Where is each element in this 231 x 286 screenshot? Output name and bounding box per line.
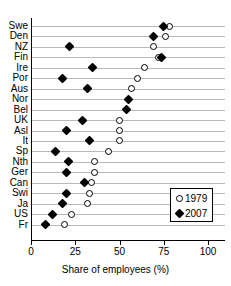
gridline [31,26,225,27]
x-tick-label-75: 75 [149,246,179,257]
gridline [31,57,225,58]
x-tick [31,241,32,245]
gridline [31,141,225,142]
data-point-den-2007 [148,31,158,41]
gridline [31,183,225,184]
data-point-ire-2007 [88,63,98,73]
y-axis-label-nor: Nor [0,94,28,104]
filled-diamond-icon [171,207,185,221]
gridline [31,162,225,163]
y-axis-label-uk: UK [0,115,28,125]
y-axis-label-swi: Swi [0,188,28,198]
x-tick [208,241,209,245]
y-axis-label-por: Por [0,73,28,83]
y-axis-label-den: Den [0,31,28,41]
gridline [31,36,225,37]
data-point-aus-2007 [83,84,93,94]
legend-label-1979: 1979 [185,194,207,204]
data-point-sp-2007 [51,146,61,156]
data-point-asl-1979 [116,127,123,134]
data-point-nth-2007 [63,157,73,167]
data-point-us-1979 [68,211,75,218]
data-point-por-1979 [134,75,141,82]
data-point-swi-2007 [61,188,71,198]
data-point-bel-2007 [122,105,132,115]
legend-entry-1979: 1979 [171,191,214,206]
legend-label-2007: 2007 [185,209,207,219]
data-point-swi-1979 [86,190,93,197]
data-point-ja-2007 [58,199,68,209]
data-point-den-1979 [162,33,169,40]
data-point-fr-1979 [61,221,68,228]
x-tick [120,241,121,245]
y-axis-label-asl: Asl [0,126,28,136]
y-axis-label-fr: Fr [0,220,28,230]
x-tick-label-0: 0 [16,246,46,257]
data-point-por-2007 [58,73,68,83]
data-point-us-2007 [47,209,57,219]
data-point-ger-1979 [91,169,98,176]
data-point-aus-1979 [128,85,135,92]
dot-plot-chart: SweDenNZFinIrePorAusNorBelUKAslItSpNthGe… [0,0,231,286]
legend-entry-2007: 2007 [171,206,214,221]
x-tick-label-25: 25 [60,246,90,257]
gridline [31,120,225,121]
open-circle-icon [171,192,185,206]
x-tick [164,241,165,245]
data-point-nth-1979 [91,158,98,165]
data-point-sp-1979 [105,148,112,155]
legend: 1979 2007 [170,188,213,222]
x-tick-label-100: 100 [193,246,223,257]
x-tick [75,241,76,245]
data-point-uk-1979 [116,117,123,124]
data-point-asl-2007 [61,126,71,136]
y-axis-label-sp: Sp [0,146,28,156]
data-point-it-1979 [116,137,123,144]
data-point-ire-1979 [141,64,148,71]
gridline [31,68,225,69]
y-axis-line [31,18,32,241]
gridline [31,47,225,48]
gridline [31,225,225,226]
gridline [31,131,225,132]
data-point-nor-2007 [123,94,133,104]
data-point-it-2007 [84,136,94,146]
data-point-nz-2007 [65,42,75,52]
data-point-can-2007 [79,178,89,188]
x-axis-line [31,240,225,241]
y-axis-label-fin: Fin [0,52,28,62]
y-axis-label-ger: Ger [0,167,28,177]
data-point-ja-1979 [84,200,91,207]
data-point-fr-2007 [40,220,50,230]
data-point-uk-2007 [77,115,87,125]
x-axis-title: Share of employees (%) [0,264,231,276]
y-axis-label-us: US [0,209,28,219]
x-tick-label-50: 50 [105,246,135,257]
data-point-nz-1979 [150,43,157,50]
data-point-ger-2007 [61,167,71,177]
gridline [31,172,225,173]
